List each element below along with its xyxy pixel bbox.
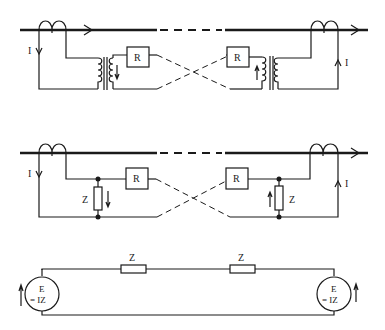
current-label-left: I	[28, 45, 31, 56]
impedance-left	[94, 187, 102, 210]
wire	[42, 311, 334, 315]
current-arrow-up-icon	[268, 192, 272, 207]
emf-arrow-up-icon	[19, 285, 23, 306]
current-label-right: I	[345, 178, 348, 189]
impedance-left	[121, 265, 146, 273]
wire	[66, 30, 98, 58]
impedance-label-left: Z	[129, 252, 135, 263]
current-label-right: I	[345, 57, 348, 68]
voltage-source-right	[317, 277, 351, 311]
panel-bottom: Z Z E = IZ E = IZ	[19, 252, 358, 315]
source-label-left-e: E	[39, 284, 45, 294]
relay-label-left: R	[133, 173, 140, 184]
source-label-right-e: E	[331, 284, 337, 294]
current-arrow-down-icon	[106, 191, 110, 207]
emf-arrow-up-icon	[354, 284, 358, 302]
wire	[66, 153, 127, 179]
current-label-left: I	[28, 168, 31, 179]
impedance-right	[275, 186, 283, 210]
source-label-left-iz: = IZ	[30, 295, 46, 305]
panel-middle: I Z R R Z I	[20, 144, 368, 220]
impedance-label-right: Z	[289, 194, 295, 205]
transformer-secondary-left	[109, 58, 113, 89]
relay-label-right: R	[233, 173, 240, 184]
current-arrow-up-icon	[255, 66, 259, 80]
panel-top: I R R I	[20, 21, 368, 90]
transformer-secondary-right	[262, 57, 266, 89]
impedance-label-left: Z	[82, 194, 88, 205]
source-label-right-iz: = IZ	[322, 295, 338, 305]
wire	[39, 30, 98, 89]
impedance-right	[230, 265, 255, 273]
voltage-source-left	[25, 277, 59, 311]
transformer-primary-right	[274, 58, 278, 89]
wire	[42, 269, 121, 270]
current-arrow-down-icon	[115, 65, 119, 79]
wire	[255, 269, 334, 276]
transformer-primary-left	[98, 58, 102, 89]
wire	[278, 30, 338, 89]
relay-label-right: R	[234, 52, 241, 63]
wire	[248, 153, 310, 179]
impedance-label-right: Z	[238, 252, 244, 263]
wire	[113, 55, 127, 58]
diagram-canvas: I R R I	[0, 0, 385, 330]
wire	[278, 30, 311, 58]
relay-label-left: R	[134, 52, 141, 63]
